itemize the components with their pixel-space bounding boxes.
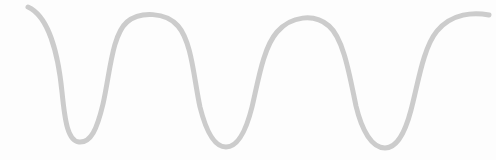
canvas-background <box>0 0 496 160</box>
wave-illustration-canvas <box>0 0 496 160</box>
wave-svg <box>0 0 496 160</box>
